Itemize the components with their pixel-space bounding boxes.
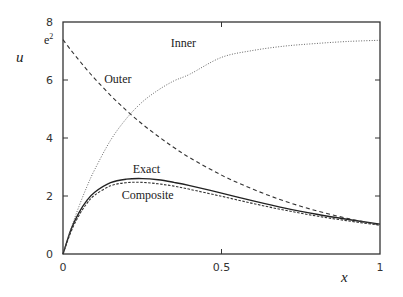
e-squared-tick-label: e2 bbox=[44, 32, 53, 47]
curve-label-composite: Composite bbox=[122, 188, 174, 202]
curve-label-exact: Exact bbox=[133, 162, 161, 176]
y-tick-label: 6 bbox=[46, 74, 53, 87]
plot-frame bbox=[63, 22, 380, 254]
x-tick-label: 0.5 bbox=[213, 261, 231, 274]
y-tick-label: 8 bbox=[46, 16, 53, 29]
y-tick-label: 0 bbox=[46, 248, 53, 261]
curve-label-inner: Inner bbox=[171, 36, 196, 50]
curve-label-outer: Outer bbox=[104, 72, 131, 86]
chart: 00.5102468 InnerOuterExactComposite u x … bbox=[0, 0, 403, 297]
exact-curve bbox=[63, 179, 380, 254]
y-axis-label: u bbox=[16, 49, 24, 65]
y-tick-label: 2 bbox=[46, 190, 53, 203]
curve-labels: InnerOuterExactComposite bbox=[104, 36, 196, 203]
outer-curve bbox=[63, 40, 380, 225]
x-axis-label: x bbox=[340, 269, 348, 285]
axis-ticks: 00.5102468 bbox=[46, 16, 384, 274]
y-tick-label: 4 bbox=[46, 132, 53, 145]
x-tick-label: 1 bbox=[377, 261, 384, 274]
x-tick-label: 0 bbox=[60, 261, 67, 274]
